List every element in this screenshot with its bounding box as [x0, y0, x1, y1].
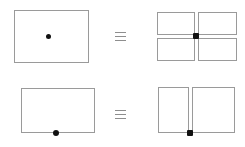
equiv-bar-3 [115, 40, 126, 41]
grid-cell-bottom-right [198, 38, 237, 61]
shape-grid-two-by-two [157, 12, 237, 61]
diagram-canvas: ≡ ≡ Rectangle subdivision equivalence di… [0, 0, 245, 147]
rectangle-outline [21, 88, 95, 133]
equiv-bar-3 [115, 118, 126, 119]
grid-cell-top-left [157, 12, 195, 35]
marker-point-shared-bottom-corner [187, 130, 193, 136]
marker-point-interior [46, 34, 51, 39]
grid-cell-top-right [198, 12, 237, 35]
equivalence-symbol-bottom [115, 109, 126, 120]
grid-cell-bottom-left [157, 38, 195, 61]
rectangle-outline [14, 10, 89, 63]
marker-point-shared-corner [193, 33, 199, 39]
equiv-bar-1 [115, 32, 126, 33]
equivalence-symbol-top [115, 31, 126, 42]
grid-cell-left [158, 87, 189, 133]
equiv-bar-2 [115, 114, 126, 115]
equiv-bar-2 [115, 36, 126, 37]
shape-grid-one-by-two [158, 87, 235, 133]
marker-point-bottom-edge [53, 130, 59, 136]
shape-rectangle-boundary-point [21, 88, 95, 133]
shape-rectangle-interior-point [14, 10, 89, 63]
equivalence-row-boundary-point [0, 74, 245, 147]
grid-cell-right [192, 87, 235, 133]
equivalence-row-interior-point [0, 0, 245, 74]
equiv-bar-1 [115, 110, 126, 111]
